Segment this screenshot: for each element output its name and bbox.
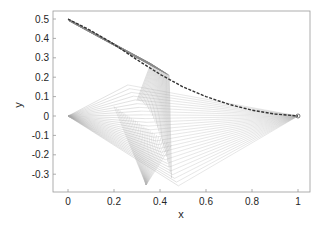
x-tick-label: 1 bbox=[295, 196, 301, 207]
y-tick-label: 0.3 bbox=[35, 52, 49, 63]
y-tick-label: 0.4 bbox=[35, 33, 49, 44]
x-tick-label: 0.6 bbox=[199, 196, 213, 207]
x-tick-label: 0.8 bbox=[245, 196, 259, 207]
x-tick-label: 0.4 bbox=[153, 196, 167, 207]
linkage-lines bbox=[68, 19, 298, 186]
y-tick-label: -0.2 bbox=[32, 149, 50, 160]
x-axis-label: x bbox=[178, 208, 184, 220]
axes-box bbox=[53, 11, 310, 192]
y-axis-ticks: -0.3-0.2-0.100.10.20.30.40.5 bbox=[32, 14, 56, 180]
y-tick-label: 0.1 bbox=[35, 91, 49, 102]
y-tick-label: -0.3 bbox=[32, 169, 50, 180]
x-tick-label: 0 bbox=[65, 196, 71, 207]
y-tick-label: 0 bbox=[43, 111, 49, 122]
y-tick-label: 0.5 bbox=[35, 14, 49, 25]
y-tick-label: -0.1 bbox=[32, 130, 50, 141]
dashed-trajectory bbox=[68, 19, 298, 116]
y-axis-label: y bbox=[12, 102, 24, 108]
chart: 00.20.40.60.81 -0.3-0.2-0.100.10.20.30.4… bbox=[0, 0, 324, 228]
y-tick-label: 0.2 bbox=[35, 72, 49, 83]
x-tick-label: 0.2 bbox=[107, 196, 121, 207]
